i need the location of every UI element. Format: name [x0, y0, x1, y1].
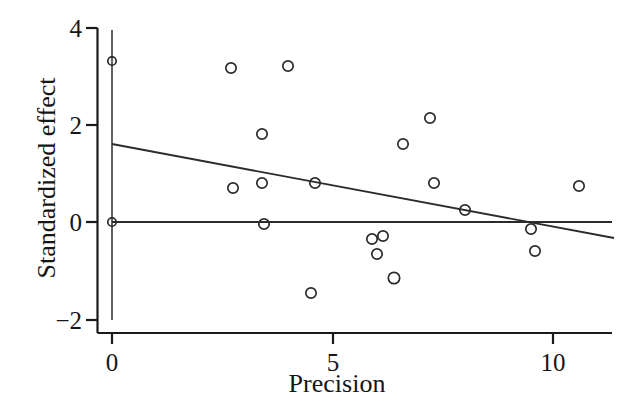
data-point	[425, 113, 435, 123]
data-point	[574, 181, 584, 191]
data-point	[228, 183, 238, 193]
x-axis-title: Precision	[289, 371, 386, 397]
data-point	[257, 178, 267, 188]
plot-canvas	[0, 0, 618, 411]
ytick-label-minus2: −2	[48, 308, 82, 333]
data-point	[372, 249, 382, 259]
y-axis-ticks	[86, 28, 98, 320]
ytick-label-4: 4	[58, 16, 82, 41]
data-point	[367, 234, 377, 244]
xtick-label-0: 0	[106, 350, 119, 375]
ytick-label-0: 0	[58, 210, 82, 235]
funnel-plot-figure: 4 2 0 −2 0 5 10 Precision Standardized e…	[0, 0, 618, 411]
data-point	[429, 178, 439, 188]
xtick-label-10: 10	[541, 350, 566, 375]
x-axis-ticks	[112, 333, 553, 344]
data-points	[108, 57, 584, 298]
y-axis-title: Standardized effect	[34, 78, 60, 279]
data-point	[530, 246, 540, 256]
data-point	[398, 139, 408, 149]
data-point	[306, 288, 316, 298]
regression-line	[112, 144, 614, 238]
data-point	[378, 231, 388, 241]
data-point	[526, 224, 536, 234]
data-point	[283, 61, 293, 71]
data-point	[259, 219, 269, 229]
data-point	[388, 272, 399, 283]
data-point	[257, 129, 267, 139]
data-point	[226, 63, 236, 73]
ytick-label-2: 2	[58, 113, 82, 138]
